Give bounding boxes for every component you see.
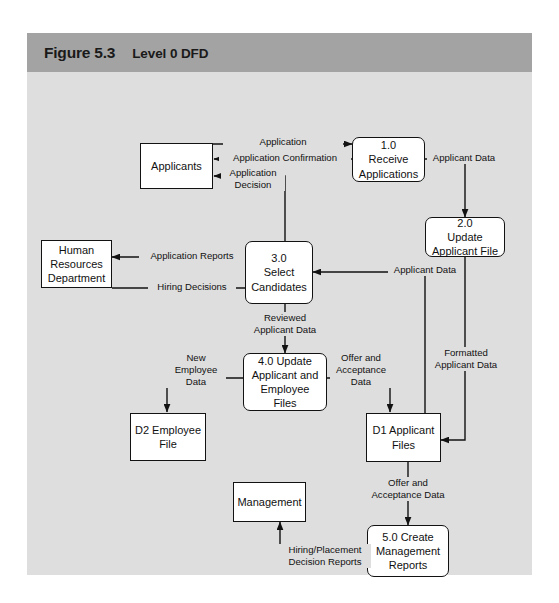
entity-applicants[interactable]: Applicants (140, 143, 213, 189)
flow-label-hiring-decisions: Hiring Decisions (148, 281, 236, 293)
dfd-diagram-canvas: Applicants Human Resources Department Ma… (27, 72, 532, 575)
flow-label-application: Application (223, 136, 343, 148)
figure-header-bar: Figure 5.3 Level 0 DFD (27, 33, 532, 72)
entity-hr-department[interactable]: Human Resources Department (41, 240, 112, 288)
process-5-label: 5.0 Create Management Reports (376, 530, 440, 572)
flow-label-new-employee-data: New Employee Data (166, 352, 226, 388)
flow-label-application-decision: Application Decision (221, 167, 285, 191)
process-3-label: 3.0 Select Candidates (251, 251, 307, 293)
entity-hr-department-label: Human Resources Department (48, 243, 105, 285)
process-4-label: 4.0 Update Applicant and Employee Files (252, 354, 319, 410)
flow-label-application-reports: Application Reports (139, 250, 245, 262)
figure-panel: Figure 5.3 Level 0 DFD (27, 33, 532, 575)
entity-management[interactable]: Management (233, 482, 306, 522)
flow-label-application-confirmation: Application Confirmation (219, 152, 351, 164)
flow-line-applicant-data-up (313, 272, 425, 413)
process-5-create-management-reports[interactable]: 5.0 Create Management Reports (367, 525, 449, 577)
process-4-update-applicant-employee-files[interactable]: 4.0 Update Applicant and Employee Files (243, 353, 327, 411)
datastore-d2-label: D2 Employee File (135, 423, 201, 451)
datastore-d1-applicant-files[interactable]: D1 Applicant Files (366, 413, 441, 462)
flow-label-formatted-applicant-data: Formatted Applicant Data (427, 347, 505, 371)
process-1-receive-applications[interactable]: 1.0 Receive Applications (352, 137, 425, 182)
flow-label-offer-acceptance-data-bottom: Offer and Acceptance Data (360, 477, 456, 501)
flow-label-applicant-data-up: Applicant Data (388, 264, 462, 276)
process-1-label: 1.0 Receive Applications (359, 138, 418, 180)
process-3-select-candidates[interactable]: 3.0 Select Candidates (245, 241, 313, 304)
figure-title: Level 0 DFD (132, 46, 208, 61)
flow-line-applicant-data-top (425, 159, 465, 217)
entity-management-label: Management (237, 495, 301, 509)
flow-label-offer-acceptance-data: Offer and Acceptance Data (330, 352, 392, 388)
flow-label-hiring-placement-reports: Hiring/Placement Decision Reports (279, 544, 371, 568)
datastore-d1-label: D1 Applicant Files (373, 423, 435, 451)
datastore-d2-employee-file[interactable]: D2 Employee File (130, 413, 206, 461)
figure-number: Figure 5.3 (44, 44, 115, 62)
flow-label-reviewed-applicant-data: Reviewed Applicant Data (243, 312, 327, 336)
flow-label-applicant-data-top: Applicant Data (427, 152, 501, 164)
process-2-label: 2.0 Update Applicant File (432, 216, 498, 258)
process-2-update-applicant-file[interactable]: 2.0 Update Applicant File (425, 217, 505, 257)
entity-applicants-label: Applicants (151, 159, 202, 173)
